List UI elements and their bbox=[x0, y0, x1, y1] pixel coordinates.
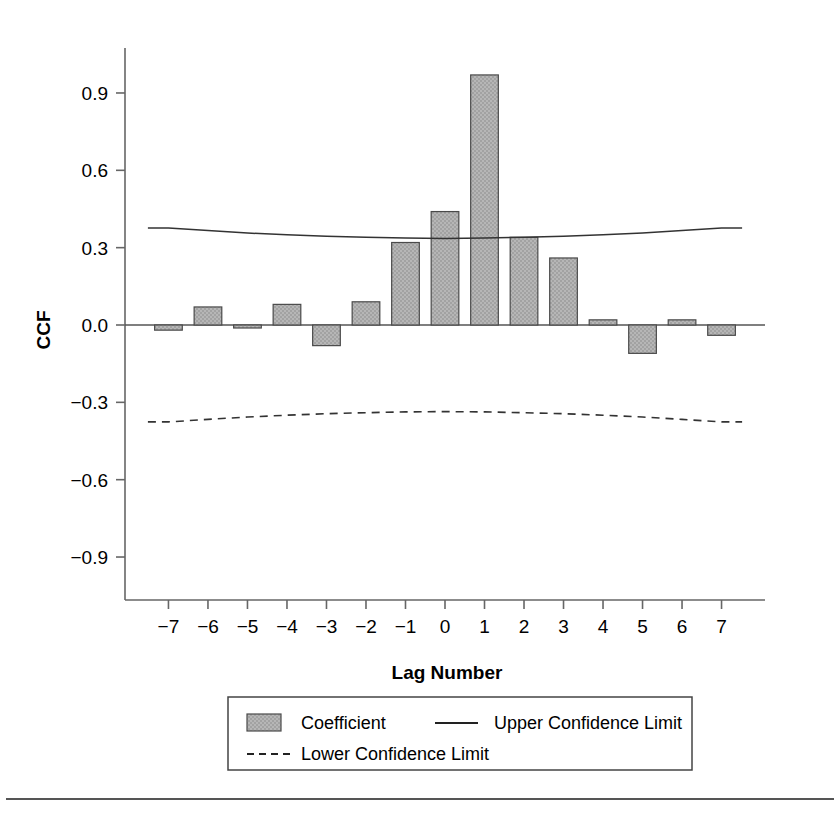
ccf-cross-correlation-chart: 0.90.60.30.0−0.3−0.6−0.9 −7−6−5−4−3−2−10… bbox=[0, 0, 840, 814]
y-tick-label: 0.0 bbox=[82, 315, 108, 336]
legend-label-coefficient: Coefficient bbox=[301, 713, 386, 733]
coefficient-bar bbox=[471, 75, 499, 325]
x-tick-label: 1 bbox=[479, 616, 490, 637]
x-tick-label: −6 bbox=[197, 616, 219, 637]
coefficient-bar bbox=[629, 325, 657, 353]
chart-legend: Coefficient Upper Confidence Limit Lower… bbox=[228, 697, 692, 770]
coefficient-bar bbox=[510, 237, 538, 325]
coefficient-bar bbox=[589, 320, 617, 325]
coefficient-bar bbox=[273, 304, 301, 325]
y-tick-label: −0.3 bbox=[70, 392, 108, 413]
x-tick-label: 0 bbox=[440, 616, 451, 637]
coefficient-bar bbox=[431, 212, 459, 325]
legend-label-upper-confidence-limit: Upper Confidence Limit bbox=[494, 713, 682, 733]
x-tick-label: 4 bbox=[598, 616, 609, 637]
x-tick-label: −1 bbox=[395, 616, 417, 637]
coefficient-bar bbox=[352, 302, 380, 325]
x-tick-label: −4 bbox=[276, 616, 298, 637]
legend-label-lower-confidence-limit: Lower Confidence Limit bbox=[301, 744, 489, 764]
x-tick-label: −3 bbox=[316, 616, 338, 637]
y-tick-label: −0.9 bbox=[70, 547, 108, 568]
x-tick-label: 7 bbox=[716, 616, 727, 637]
chart-background bbox=[0, 0, 840, 814]
x-tick-label: 6 bbox=[677, 616, 688, 637]
coefficient-bar bbox=[668, 320, 696, 325]
coefficient-bar bbox=[155, 325, 183, 330]
x-tick-label: 3 bbox=[558, 616, 569, 637]
x-tick-label: 5 bbox=[637, 616, 648, 637]
y-axis-title: CCF bbox=[33, 310, 54, 349]
y-tick-label: −0.6 bbox=[70, 470, 108, 491]
chart-page: 0.90.60.30.0−0.3−0.6−0.9 −7−6−5−4−3−2−10… bbox=[0, 0, 840, 814]
coefficient-bar bbox=[550, 258, 578, 325]
coefficient-bar bbox=[194, 307, 222, 325]
x-tick-label: −2 bbox=[355, 616, 377, 637]
x-tick-label: −7 bbox=[158, 616, 180, 637]
coefficient-bar bbox=[392, 243, 420, 325]
coefficient-bar bbox=[708, 325, 736, 335]
x-axis-title: Lag Number bbox=[392, 662, 503, 683]
coefficient-bar bbox=[234, 325, 262, 328]
y-tick-label: 0.6 bbox=[82, 160, 108, 181]
y-tick-label: 0.9 bbox=[82, 83, 108, 104]
y-tick-label: 0.3 bbox=[82, 238, 108, 259]
x-tick-label: 2 bbox=[519, 616, 530, 637]
legend-swatch-coefficient bbox=[247, 714, 281, 731]
coefficient-bar bbox=[313, 325, 341, 346]
x-tick-label: −5 bbox=[237, 616, 259, 637]
